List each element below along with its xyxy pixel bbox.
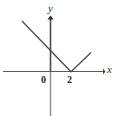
x-tick-label-2: 2 bbox=[67, 75, 72, 85]
coordinate-plane-svg bbox=[0, 0, 118, 116]
origin-tick-label: 0 bbox=[41, 75, 46, 85]
y-axis-label: y bbox=[48, 3, 53, 14]
x-axis-arrowhead bbox=[103, 68, 106, 74]
function-curve bbox=[22, 21, 91, 72]
y-axis-arrowhead bbox=[47, 16, 53, 20]
x-axis-label: x bbox=[107, 64, 112, 75]
graph-figure: y x 0 2 bbox=[0, 0, 118, 116]
